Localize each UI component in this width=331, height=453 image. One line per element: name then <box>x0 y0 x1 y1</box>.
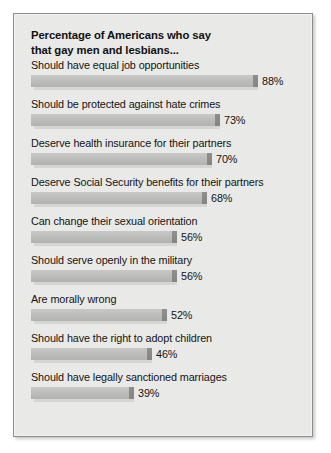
bar-value: 88% <box>262 74 283 88</box>
bar-track: 52% <box>31 309 302 325</box>
bar-shadow <box>34 204 207 207</box>
bar-value: 73% <box>224 113 245 127</box>
bar-row: Deserve Social Security benefits for the… <box>14 175 312 214</box>
bar-track: 73% <box>31 114 302 130</box>
bar-track: 88% <box>31 75 302 91</box>
bar-label: Should have the right to adopt children <box>31 331 212 345</box>
bar-value: 52% <box>171 308 192 322</box>
bar-shadow <box>34 360 152 363</box>
bar-label: Deserve health insurance for their partn… <box>31 136 231 150</box>
bar-fill <box>31 387 129 399</box>
bar-end-cap <box>215 114 220 126</box>
bar-label: Should have legally sanctioned marriages <box>31 370 227 384</box>
bar-end-cap <box>162 309 167 321</box>
bar-label: Can change their sexual orientation <box>31 214 197 228</box>
bar-track: 39% <box>31 387 302 403</box>
bar-end-cap <box>172 270 177 282</box>
bar-row: Deserve health insurance for their partn… <box>14 136 312 175</box>
bar-value: 70% <box>216 152 237 166</box>
bar-end-cap <box>172 231 177 243</box>
bar-fill <box>31 348 147 360</box>
bar-end-cap <box>147 348 152 360</box>
chart-panel: Percentage of Americans who say that gay… <box>13 13 313 437</box>
bar-track: 56% <box>31 231 302 247</box>
bar-end-cap <box>253 75 258 87</box>
bar-track: 70% <box>31 153 302 169</box>
bar-shadow <box>34 243 177 246</box>
bar-row: Should have equal job opportunities 88% <box>14 58 312 97</box>
bar-fill <box>31 270 172 282</box>
bar-fill <box>31 153 207 165</box>
bar-shadow <box>34 87 258 90</box>
bar-value: 68% <box>211 191 232 205</box>
bar-row: Are morally wrong 52% <box>14 292 312 331</box>
bar-list: Should have equal job opportunities 88% … <box>14 58 312 409</box>
bar-shadow <box>34 165 212 168</box>
bar-label: Are morally wrong <box>31 292 116 306</box>
bar-value: 56% <box>181 269 202 283</box>
bar-row: Should have the right to adopt children … <box>14 331 312 370</box>
bar-label: Deserve Social Security benefits for the… <box>31 175 264 189</box>
bar-row: Should be protected against hate crimes … <box>14 97 312 136</box>
bar-row: Can change their sexual orientation 56% <box>14 214 312 253</box>
bar-shadow <box>34 126 220 129</box>
bar-label: Should serve openly in the military <box>31 253 192 267</box>
bar-row: Should have legally sanctioned marriages… <box>14 370 312 409</box>
bar-value: 56% <box>181 230 202 244</box>
bar-track: 56% <box>31 270 302 286</box>
chart-title: Percentage of Americans who say that gay… <box>31 28 281 57</box>
bar-fill <box>31 75 253 87</box>
bar-track: 46% <box>31 348 302 364</box>
bar-label: Should be protected against hate crimes <box>31 97 220 111</box>
bar-shadow <box>34 399 134 402</box>
bar-fill <box>31 114 215 126</box>
bar-fill <box>31 192 202 204</box>
bar-shadow <box>34 282 177 285</box>
bar-end-cap <box>207 153 212 165</box>
bar-fill <box>31 231 172 243</box>
bar-end-cap <box>129 387 134 399</box>
bar-row: Should serve openly in the military 56% <box>14 253 312 292</box>
bar-label: Should have equal job opportunities <box>31 58 199 72</box>
bar-end-cap <box>202 192 207 204</box>
bar-value: 39% <box>138 386 159 400</box>
bar-track: 68% <box>31 192 302 208</box>
bar-fill <box>31 309 162 321</box>
bar-shadow <box>34 321 167 324</box>
bar-value: 46% <box>156 347 177 361</box>
